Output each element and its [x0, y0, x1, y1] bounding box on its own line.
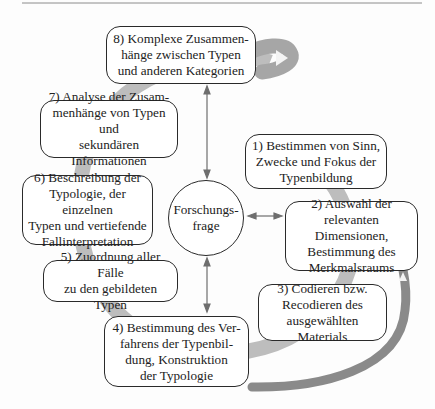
step-2-box: 2) Auswahl der relevanten Dimensionen, B…: [285, 201, 418, 271]
arrowhead-up-icon: [204, 258, 210, 266]
research-question-circle: Forschungs- frage: [168, 180, 244, 256]
step-7-box: 7) Analyse der Zusam- menhänge von Typen…: [40, 100, 178, 158]
typology-process-diagram: 8) Komplexe Zusammen- hänge zwischen Typ…: [0, 0, 435, 409]
arrowhead-up-icon: [204, 86, 210, 94]
arrowhead-right-icon: [274, 213, 282, 219]
step-5-box: 5) Zuordnung aller Fälle zu den gebildet…: [43, 260, 178, 302]
step-4-box: 4) Bestimmung des Ver- fahrens der Typen…: [104, 316, 249, 387]
arrowhead-down-icon: [204, 170, 210, 178]
arrowhead-left-icon: [248, 213, 256, 219]
step-6-box: 6) Beschreibung der Typologie, der einze…: [22, 175, 153, 245]
step-8-box: 8) Komplexe Zusammen- hänge zwischen Typ…: [106, 26, 256, 84]
step-3-box: 3) Codieren bzw. Recodieren des ausgewäh…: [258, 284, 387, 341]
arrowhead-down-icon: [204, 304, 210, 312]
step-1-box: 1) Bestimmen von Sinn, Zwecke und Fokus …: [245, 134, 387, 189]
